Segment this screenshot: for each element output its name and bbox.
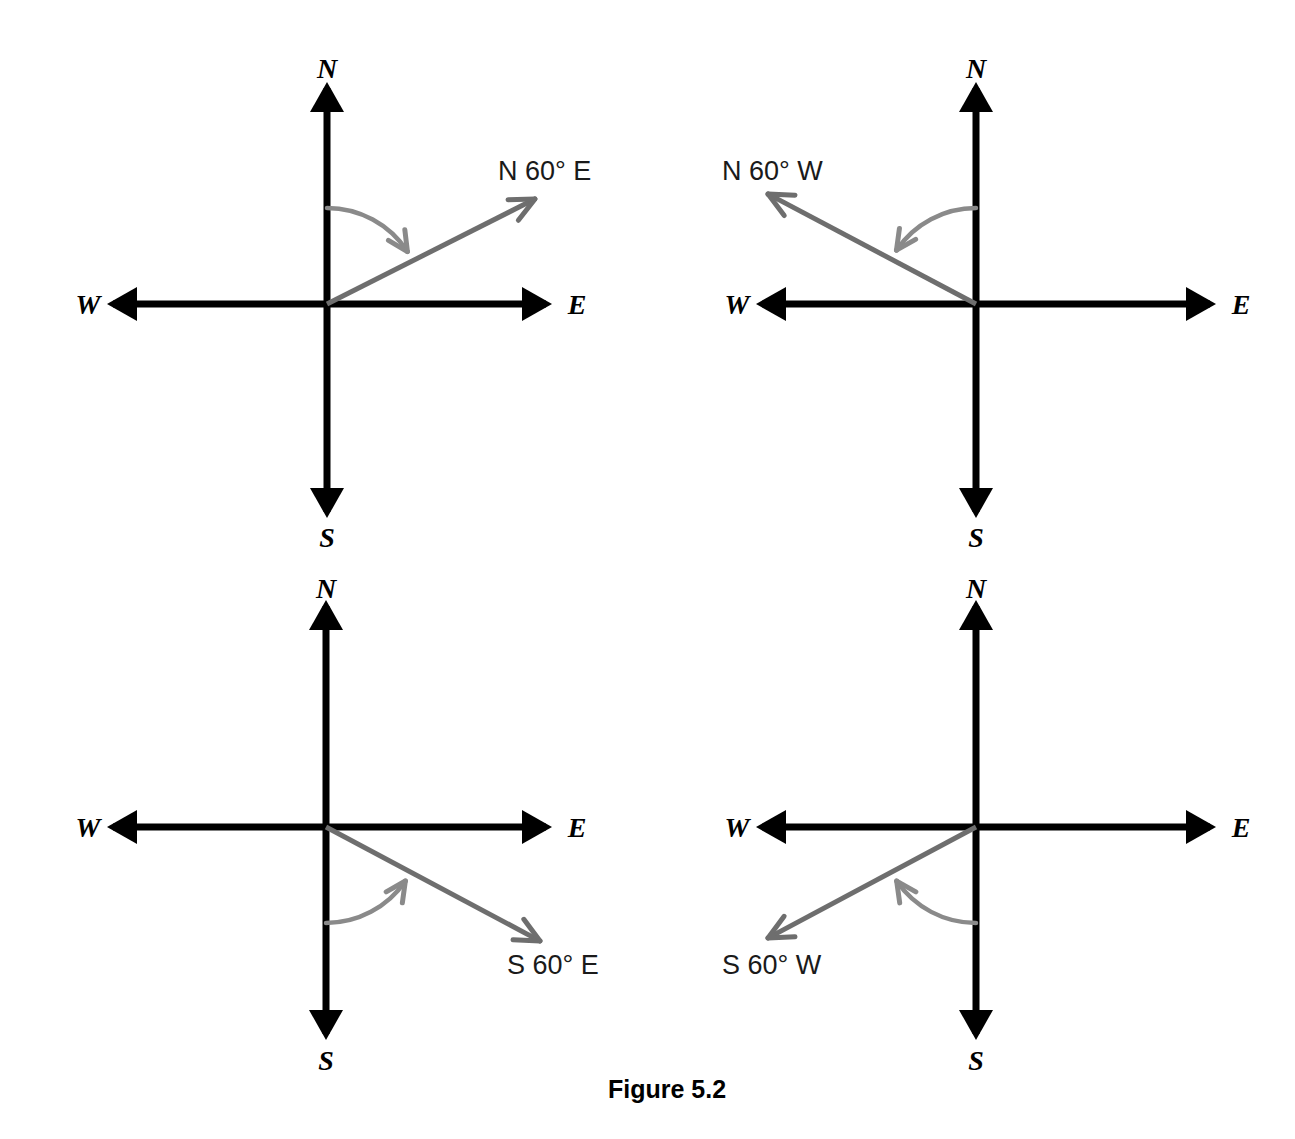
south-label: S [968, 1045, 984, 1076]
south-label: S [318, 1045, 334, 1076]
east-label: E [1231, 289, 1251, 320]
east-arrowhead [522, 810, 552, 844]
bearing-label-bearing-s60w: S 60° W [722, 950, 822, 980]
east-arrowhead [522, 287, 552, 321]
compass-bearings-figure: NSWEN 60° ENSWEN 60° WNSWES 60° ENSWES 6… [0, 0, 1295, 1139]
bearing-label-bearing-n60e: N 60° E [498, 156, 591, 186]
angle-arc-arrowhead-barb-1 [897, 881, 900, 903]
north-arrowhead [310, 82, 344, 112]
bearing-ray-line [326, 827, 536, 939]
bearing-label-bearing-n60w: N 60° W [722, 156, 823, 186]
west-label: W [725, 812, 752, 843]
compass-diagram-bearing-n60w: NSWEN 60° W [722, 53, 1250, 553]
north-label: N [965, 573, 988, 604]
bearing-ray-arrowhead-barb-1 [508, 199, 535, 200]
bearing-ray-arrowhead-barb-0 [768, 194, 795, 195]
west-label: W [725, 289, 752, 320]
south-label: S [319, 522, 335, 553]
diagrams-layer: NSWEN 60° ENSWEN 60° WNSWES 60° ENSWES 6… [76, 53, 1251, 1076]
figure-container: NSWEN 60° ENSWEN 60° WNSWES 60° ENSWES 6… [0, 0, 1295, 1139]
west-arrowhead [756, 287, 786, 321]
west-label: W [76, 812, 103, 843]
angle-arc-arrowhead-barb-1 [405, 230, 408, 252]
north-arrowhead [959, 82, 993, 112]
bearing-label-bearing-s60e: S 60° E [507, 950, 599, 980]
east-arrowhead [1186, 287, 1216, 321]
north-label: N [965, 53, 988, 84]
bearing-ray-line [327, 201, 531, 304]
east-label: E [1231, 812, 1251, 843]
west-arrowhead [107, 810, 137, 844]
south-arrowhead [959, 488, 993, 518]
bearing-ray-arrowhead-barb-1 [768, 937, 795, 938]
west-arrowhead [756, 810, 786, 844]
west-arrowhead [107, 287, 137, 321]
west-label: W [76, 289, 103, 320]
north-arrowhead [309, 600, 343, 630]
figure-caption: Figure 5.2 [608, 1075, 726, 1103]
south-arrowhead [309, 1010, 343, 1040]
south-arrowhead [959, 1010, 993, 1040]
south-label: S [968, 522, 984, 553]
compass-diagram-bearing-n60e: NSWEN 60° E [76, 53, 592, 553]
north-arrowhead [959, 600, 993, 630]
compass-diagram-bearing-s60e: NSWES 60° E [76, 573, 599, 1076]
east-label: E [567, 289, 587, 320]
east-arrowhead [1186, 810, 1216, 844]
east-label: E [567, 812, 587, 843]
north-label: N [316, 53, 339, 84]
bearing-ray-arrowhead-barb-0 [513, 940, 540, 941]
compass-diagram-bearing-s60w: NSWES 60° W [722, 573, 1250, 1076]
north-label: N [315, 573, 338, 604]
south-arrowhead [310, 488, 344, 518]
